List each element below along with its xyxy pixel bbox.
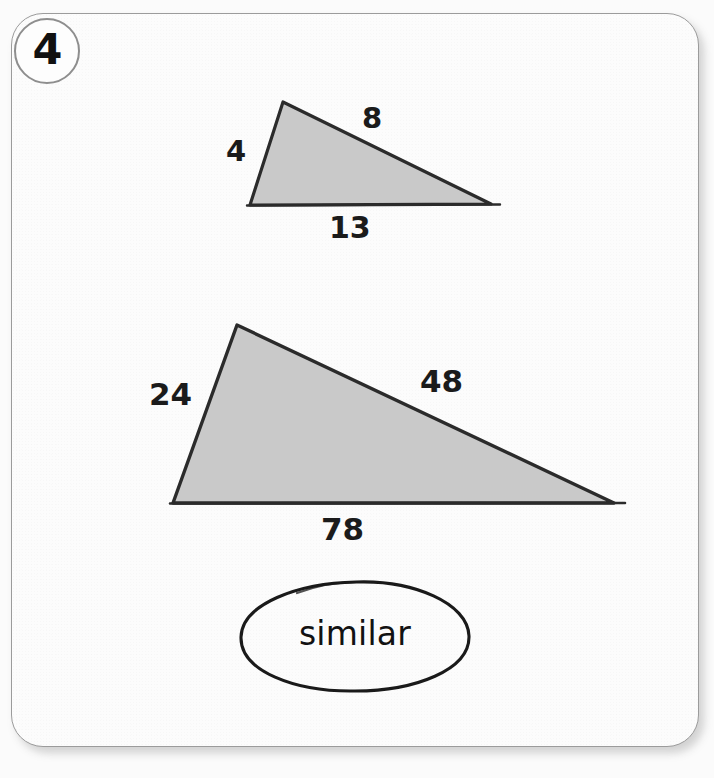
problem-number-badge: 4 bbox=[14, 18, 80, 84]
small-triangle-base-extension bbox=[247, 205, 500, 206]
small-triangle-left-side-label: 4 bbox=[226, 137, 246, 166]
large-triangle-base-label: 78 bbox=[321, 514, 364, 545]
worksheet-page: 4 4 8 13 24 48 78 similar bbox=[0, 0, 714, 778]
answer-text: similar bbox=[237, 614, 473, 653]
problem-number-text: 4 bbox=[33, 28, 62, 71]
small-triangle-base-label: 13 bbox=[329, 213, 371, 243]
large-triangle-left-side-label: 24 bbox=[149, 379, 192, 410]
large-triangle-hypotenuse-label: 48 bbox=[420, 366, 463, 397]
large-triangle-shape bbox=[173, 325, 614, 503]
small-triangle-hypotenuse-label: 8 bbox=[362, 104, 382, 133]
large-triangle-base-extension bbox=[170, 503, 625, 504]
answer-circled[interactable]: similar bbox=[237, 578, 473, 695]
